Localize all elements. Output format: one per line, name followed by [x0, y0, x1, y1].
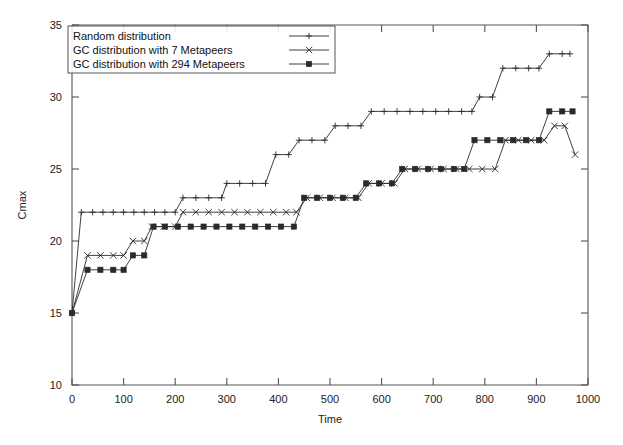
marker-square — [265, 224, 270, 229]
marker-square — [240, 224, 245, 229]
legend-label-1: GC distribution with 7 Metapeers — [73, 44, 233, 56]
marker-square-box — [278, 224, 283, 229]
marker-square — [376, 181, 381, 186]
x-tick-label: 800 — [476, 393, 494, 405]
marker-square — [327, 195, 332, 200]
marker-square-box — [214, 224, 219, 229]
marker-square-box — [130, 253, 135, 258]
y-tick-label: 35 — [50, 19, 62, 31]
marker-square-box — [425, 166, 430, 171]
marker-square — [227, 224, 232, 229]
marker-square — [340, 195, 345, 200]
marker-square — [188, 224, 193, 229]
marker-square — [69, 310, 74, 315]
marker-square — [523, 138, 528, 143]
x-tick-label: 100 — [114, 393, 132, 405]
marker-square — [498, 138, 503, 143]
marker-square — [162, 224, 167, 229]
marker-square — [547, 109, 552, 114]
marker-square — [85, 267, 90, 272]
x-tick-label: 500 — [321, 393, 339, 405]
marker-square — [98, 267, 103, 272]
y-tick-label: 10 — [50, 379, 62, 391]
marker-square-box — [376, 181, 381, 186]
marker-square-box — [240, 224, 245, 229]
marker-square-box — [111, 267, 116, 272]
marker-square — [451, 166, 456, 171]
marker-square-box — [188, 224, 193, 229]
marker-square-box — [389, 181, 394, 186]
marker-square — [560, 109, 565, 114]
marker-square-box — [306, 61, 311, 66]
marker-square-box — [121, 267, 126, 272]
marker-square-box — [175, 224, 180, 229]
marker-square — [511, 138, 516, 143]
legend: Random distributionGC distribution with … — [68, 26, 335, 73]
marker-square — [121, 267, 126, 272]
marker-square — [175, 224, 180, 229]
marker-square-box — [98, 267, 103, 272]
chart-container: 1015202530350100200300400500600700800900… — [0, 0, 623, 445]
marker-square-box — [162, 224, 167, 229]
marker-square — [413, 166, 418, 171]
marker-square — [462, 166, 467, 171]
marker-square — [201, 224, 206, 229]
y-tick-label: 15 — [50, 307, 62, 319]
marker-square-box — [353, 195, 358, 200]
marker-square — [130, 253, 135, 258]
x-tick-label: 400 — [269, 393, 287, 405]
x-tick-label: 1000 — [576, 393, 600, 405]
marker-square — [253, 224, 258, 229]
marker-square — [353, 195, 358, 200]
x-tick-label: 200 — [166, 393, 184, 405]
marker-square-box — [570, 109, 575, 114]
marker-square-box — [151, 224, 156, 229]
x-tick-label: 600 — [372, 393, 390, 405]
marker-square-box — [462, 166, 467, 171]
marker-square-box — [302, 195, 307, 200]
x-tick-label: 300 — [218, 393, 236, 405]
marker-square-box — [523, 138, 528, 143]
y-tick-label: 20 — [50, 235, 62, 247]
marker-square-box — [253, 224, 258, 229]
marker-square-box — [511, 138, 516, 143]
marker-square — [111, 267, 116, 272]
legend-label-2: GC distribution with 294 Metapeers — [73, 58, 245, 70]
marker-square — [151, 224, 156, 229]
marker-square-box — [547, 109, 552, 114]
marker-square — [315, 195, 320, 200]
x-tick-label: 0 — [69, 393, 75, 405]
cmax-vs-time-line-chart: 1015202530350100200300400500600700800900… — [0, 0, 623, 445]
marker-square — [438, 166, 443, 171]
marker-square-box — [227, 224, 232, 229]
marker-square-box — [485, 138, 490, 143]
y-tick-label: 25 — [50, 163, 62, 175]
marker-square-box — [340, 195, 345, 200]
marker-square — [472, 138, 477, 143]
marker-square — [425, 166, 430, 171]
marker-square — [291, 224, 296, 229]
marker-square-box — [315, 195, 320, 200]
marker-square — [142, 253, 147, 258]
marker-square — [278, 224, 283, 229]
marker-square — [364, 181, 369, 186]
marker-square-box — [142, 253, 147, 258]
marker-square — [485, 138, 490, 143]
x-tick-label: 700 — [424, 393, 442, 405]
marker-square — [400, 166, 405, 171]
marker-square-box — [69, 310, 74, 315]
marker-square — [570, 109, 575, 114]
marker-square-box — [201, 224, 206, 229]
marker-square-box — [400, 166, 405, 171]
x-tick-label: 900 — [527, 393, 545, 405]
marker-square-box — [85, 267, 90, 272]
marker-square-box — [265, 224, 270, 229]
y-axis-title: Cmax — [16, 190, 28, 219]
marker-square-box — [451, 166, 456, 171]
marker-square-box — [498, 138, 503, 143]
marker-square-box — [536, 138, 541, 143]
x-axis-title: Time — [318, 413, 342, 425]
marker-square — [536, 138, 541, 143]
legend-label-0: Random distribution — [73, 30, 171, 42]
marker-square-box — [413, 166, 418, 171]
